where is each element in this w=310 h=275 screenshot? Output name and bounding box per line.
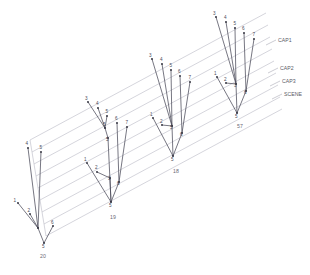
plane-leader-line [272,94,282,99]
tree-edge [44,226,53,243]
node-label: 1 [84,157,87,162]
node-label: 1 [214,71,217,76]
node-label: 5 [170,63,173,68]
grid-line [32,25,268,152]
tree-edge [182,82,190,133]
node-label: 5 [106,137,109,142]
tree-node-n6t[interactable] [243,32,245,34]
diagram-svg: CAP1CAP2CAP3SCENE 1245653455567123653456… [0,0,310,275]
node-label: 5 [109,203,112,208]
tree-node-n6t[interactable] [116,122,118,124]
tree-node-n2[interactable] [29,213,31,215]
tree-node-n5t[interactable] [234,27,236,29]
node-label: 5 [42,244,45,249]
tree-node-n4t[interactable] [161,63,163,65]
grid-line [40,73,276,200]
plane-label-cap2: CAP2 [280,65,294,71]
node-label: 5 [171,157,174,162]
grid-line [42,85,278,212]
tree-node-n3t[interactable] [87,101,89,103]
tree-node-n5t[interactable] [170,69,172,71]
node-label: 5 [103,122,106,127]
tree-node-n6t[interactable] [179,75,181,77]
node-label: 4 [26,141,29,146]
tree-node-n2[interactable] [161,124,163,126]
tree-node-n1[interactable] [86,162,88,164]
tree-edge [171,70,172,126]
grid-line [30,13,266,140]
tree-node-nm[interactable] [104,127,106,129]
tree-node-n4t[interactable] [225,21,227,23]
node-label: 6 [117,181,120,186]
grid-line [44,97,280,224]
node-label: 2 [224,77,227,82]
grid-line [46,109,282,236]
cluster-19: 345556712365 [84,96,129,208]
tree-node-n7t[interactable] [253,38,255,40]
tree-edge [244,33,246,91]
tree-edge [87,163,111,202]
node-label: 4 [96,101,99,106]
cluster-57: 3456731265 [213,11,256,119]
tree-edge [235,28,236,84]
grid-line [34,37,270,164]
node-label: 2 [95,165,98,170]
plane-leader-group: CAP1CAP2CAP3SCENE [266,37,302,99]
node-label: 3 [108,176,111,181]
tree-edge [246,39,254,91]
cluster-20: 124565 [14,141,55,249]
node-label: 4 [160,57,163,62]
plane-label-cap3: CAP3 [282,78,296,84]
node-label: 1 [14,198,17,203]
node-label: 6 [244,90,247,95]
diagram-canvas: CAP1CAP2CAP3SCENE 1245653455567123653456… [0,0,310,275]
tree-node-n4[interactable] [27,147,29,149]
tree-edge [153,118,173,156]
cluster-label-57: 57 [237,123,243,129]
node-label: 6 [180,132,183,137]
tree-node-n1[interactable] [152,117,154,119]
tree-edge [28,148,38,228]
node-label: 6 [115,116,118,121]
tree-node-n7t[interactable] [126,126,128,128]
tree-edge [162,64,172,126]
node-label: 3 [213,11,216,16]
cluster-label-18: 18 [173,168,179,174]
plane-label-cap1: CAP1 [278,37,292,43]
tree-edge [236,84,237,113]
tree-node-n4t[interactable] [97,107,99,109]
node-label: 5 [235,114,238,119]
tree-node-n6[interactable] [52,225,54,227]
node-label: 6 [242,26,245,31]
tree-edge [110,178,111,202]
tree-node-n5t[interactable] [40,151,42,153]
node-label: 5 [106,109,109,114]
tree-node-n2[interactable] [225,82,227,84]
tree-node-n3t[interactable] [215,16,217,18]
cluster-label-19: 19 [110,214,116,220]
tree-node-n2[interactable] [96,171,98,173]
node-label: 5 [40,145,43,150]
tree-node-n3t[interactable] [151,58,153,60]
tree-node-n5t[interactable] [106,115,108,117]
node-label: 6 [178,69,181,74]
tree-node-n1[interactable] [216,76,218,78]
tree-edge [119,127,127,182]
node-label: 1 [150,112,153,117]
node-label: 7 [189,75,192,80]
tree-node-nj[interactable] [37,227,39,229]
node-label: 7 [253,32,256,37]
node-label: 3 [234,83,237,88]
tree-edge [172,126,173,156]
node-label: 5 [234,21,237,26]
tree-node-n1[interactable] [17,202,19,204]
cluster-label-20: 20 [40,253,46,259]
plane-leader-line [268,68,278,73]
tree-edge [226,22,236,84]
node-label: 3 [85,96,88,101]
node-label: 3 [149,53,152,58]
tree-edge [38,228,44,243]
plane-leader-line [270,81,280,86]
node-label: 2 [160,119,163,124]
tree-node-n7t[interactable] [189,81,191,83]
